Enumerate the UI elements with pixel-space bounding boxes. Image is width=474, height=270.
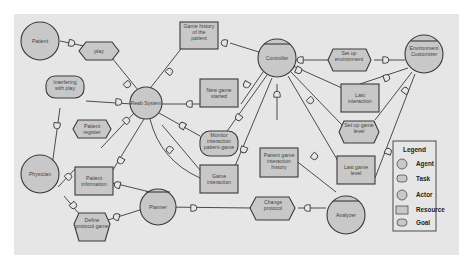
resource-last-interaction[interactable]: Lastinteraction [341, 84, 379, 112]
goal-monitor-interaction[interactable]: Monitorinteractionpatient-game [200, 131, 238, 156]
svg-text:Interferingwith play: Interferingwith play [53, 79, 76, 91]
svg-text:Resource: Resource [416, 206, 445, 213]
actor-patient[interactable]: Patient [21, 22, 59, 60]
svg-text:Reab System: Reab System [130, 100, 161, 106]
svg-text:EnvironmentCustomizer: EnvironmentCustomizer [409, 45, 439, 57]
svg-text:Patientregister: Patientregister [83, 123, 101, 135]
task-define-protocol-game[interactable]: Defineprotocol game [74, 213, 110, 241]
task-set-up-game-level[interactable]: Set up gamelevel [339, 121, 379, 143]
resource-patient-information[interactable]: Patientinformation [75, 167, 113, 195]
svg-text:Goal: Goal [416, 219, 430, 226]
svg-text:play: play [94, 48, 104, 54]
resource-game-interaction[interactable]: Gameinteraction [200, 165, 238, 193]
legend-title: Legend [403, 146, 426, 154]
resource-game-history[interactable]: Game historyof thepatient [180, 22, 218, 49]
resource-new-game-started[interactable]: New gamestarted [200, 79, 238, 107]
svg-text:Planner: Planner [149, 204, 167, 210]
svg-text:Patient: Patient [32, 38, 49, 44]
svg-text:Analyzer: Analyzer [336, 212, 356, 218]
svg-text:Agent: Agent [416, 160, 435, 168]
agent-environment-customizer[interactable]: EnvironmentCustomizer [405, 35, 443, 73]
diagram-svg: Patient Physician Reab System Controller… [0, 0, 474, 270]
task-play[interactable]: play [79, 42, 119, 60]
task-patient-register[interactable]: Patientregister [73, 120, 111, 138]
agent-analyzer[interactable]: Analyzer [327, 196, 365, 234]
agent-controller[interactable]: Controller [258, 39, 296, 77]
resource-last-game-level[interactable]: Last gamelevel [337, 156, 375, 184]
svg-text:Task: Task [416, 175, 430, 182]
actor-physician[interactable]: Physician [21, 155, 59, 193]
legend: Legend Agent Task Actor Resource Goal [393, 141, 445, 231]
legend-item-resource: Resource [396, 206, 445, 214]
svg-text:Actor: Actor [416, 191, 433, 198]
resource-patient-game-history[interactable]: Patient gameinteractionhistory [260, 148, 298, 177]
task-change-protocol[interactable]: Changeprotocol [250, 197, 295, 220]
svg-text:Changeprotocol: Changeprotocol [264, 199, 282, 211]
actor-rehab-system[interactable]: Reab System [130, 87, 162, 119]
svg-text:Physician: Physician [29, 171, 51, 177]
agent-planner[interactable]: Planner [140, 189, 176, 225]
goal-interfering-with-play[interactable]: Interferingwith play [46, 76, 84, 98]
task-set-up-environment[interactable]: Set upenvironment [328, 49, 371, 71]
svg-text:Controller: Controller [266, 55, 289, 61]
